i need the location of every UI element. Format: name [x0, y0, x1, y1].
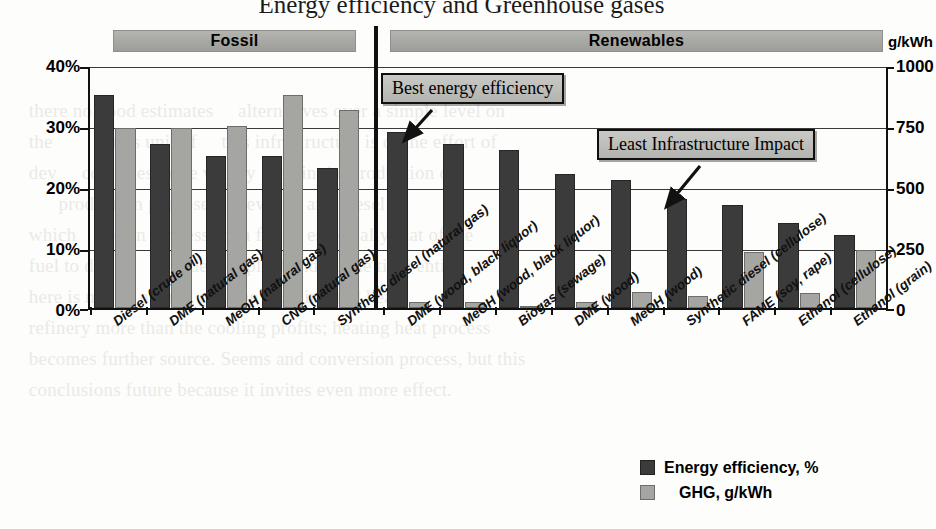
band-fossil-label: Fossil	[210, 32, 258, 50]
callout-best-energy-efficiency-text: Best energy efficiency	[392, 78, 553, 98]
y-tick-mark-left-0	[80, 309, 88, 311]
y-axis-left-tick-30: 30%	[20, 118, 80, 138]
y-axis-left-tick-20: 20%	[20, 179, 80, 199]
y-tick-mark-left-40	[80, 67, 88, 69]
legend-label-efficiency: Energy efficiency, %	[664, 459, 818, 477]
band-fossil: Fossil	[113, 30, 356, 52]
y-axis-right-tick-750: 750	[896, 118, 936, 138]
y-axis-left-tick-10: 10%	[20, 240, 80, 260]
callout-least-infrastructure-impact-text: Least Infrastructure Impact	[608, 134, 804, 154]
band-renewables: Renewables	[390, 30, 883, 52]
band-renewables-label: Renewables	[589, 32, 684, 50]
chart-title: Energy efficiency and Greenhouse gases	[0, 0, 923, 19]
legend: Energy efficiency, % GHG, g/kWh	[640, 455, 818, 505]
bar-energy-efficiency	[94, 95, 114, 308]
callout-least-infrastructure-impact: Least Infrastructure Impact	[597, 129, 815, 160]
bar-group	[611, 67, 667, 308]
legend-item-efficiency: Energy efficiency, %	[640, 455, 818, 480]
y-axis-left-tick-40: 40%	[20, 57, 80, 77]
y-tick-mark-left-30	[80, 128, 88, 130]
y-axis-right-tick-500: 500	[896, 179, 936, 199]
callout-best-energy-efficiency: Best energy efficiency	[381, 73, 564, 104]
fossil-renewables-divider	[374, 26, 378, 310]
y-axis-right-tick-1000: 1000	[896, 57, 936, 77]
bar-ghg	[115, 128, 135, 308]
legend-label-ghg: GHG, g/kWh	[679, 484, 772, 502]
bar-group	[94, 67, 150, 308]
legend-item-ghg: GHG, g/kWh	[640, 480, 818, 505]
x-axis-label-container: Diesel (crude oil)DME (natural gas)MeOH …	[0, 313, 923, 448]
y-tick-mark-left-20	[80, 189, 88, 191]
right-axis-unit: g/kWh	[888, 30, 933, 52]
y-tick-mark-left-10	[80, 250, 88, 252]
legend-swatch-ghg	[640, 485, 655, 500]
y-axis-right-tick-250: 250	[896, 240, 936, 260]
legend-swatch-efficiency	[640, 460, 655, 475]
